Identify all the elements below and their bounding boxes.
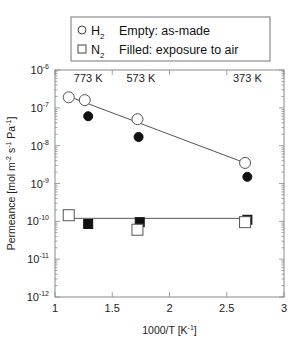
temperature-label: 773 K: [74, 72, 103, 84]
y-tick-label: 10-8: [31, 139, 50, 152]
x-tick-label: 1: [52, 302, 58, 314]
y-tick-label: 10-12: [27, 290, 49, 303]
open-circle-marker: [63, 92, 74, 103]
legend-circle-icon: [78, 26, 86, 34]
x-axis-title: 1000/T [K-1]: [142, 324, 197, 336]
y-tick-label: 10-9: [31, 177, 50, 190]
open-square-marker: [63, 210, 74, 221]
legend-description: Empty: as-made: [119, 24, 210, 38]
fit-line: [69, 96, 245, 162]
permeance-chart: H2Empty: as-madeN2Filled: exposure to ai…: [0, 0, 300, 351]
y-tick-label: 10-6: [31, 63, 50, 76]
x-tick-label: 2.5: [219, 302, 234, 314]
open-circle-marker: [132, 114, 143, 125]
x-tick-label: 2: [166, 302, 172, 314]
legend: H2Empty: as-madeN2Filled: exposure to ai…: [71, 17, 270, 61]
open-square-marker: [132, 224, 143, 235]
legend-square-icon: [78, 45, 86, 53]
temperature-label: 573 K: [127, 72, 156, 84]
fit-lines: [69, 96, 248, 218]
y-tick-label: 10-10: [27, 214, 49, 227]
filled-circle-marker: [84, 112, 93, 121]
legend-description: Filled: exposure to air: [119, 43, 239, 57]
x-tick-label: 3: [281, 302, 287, 314]
temperature-label: 373 K: [233, 72, 262, 84]
y-tick-label: 10-11: [27, 252, 49, 265]
x-tick-label: 1.5: [105, 302, 120, 314]
y-axis-title: Permeance [mol m-2 s-1 Pa-1]: [5, 117, 17, 251]
open-circle-marker: [240, 157, 251, 168]
open-square-marker: [240, 217, 251, 228]
open-circle-marker: [79, 95, 90, 106]
data-points: [63, 92, 252, 235]
temperature-labels: 773 K573 K373 K: [74, 72, 263, 84]
filled-circle-marker: [134, 132, 143, 141]
axis-labels: 10-610-710-810-910-1010-1110-1211.522.53…: [5, 63, 287, 336]
filled-square-marker: [84, 220, 93, 229]
filled-circle-marker: [243, 172, 252, 181]
y-tick-label: 10-7: [31, 101, 50, 114]
